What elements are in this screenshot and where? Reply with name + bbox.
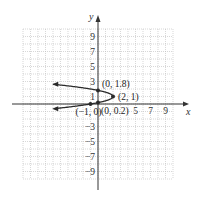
curve-arrow-icon (52, 106, 58, 111)
y-tick-label: 5 (90, 62, 95, 72)
y-tick-label: −5 (85, 137, 95, 147)
y-tick-label: −7 (85, 152, 95, 162)
curve-arrow-icon (52, 82, 58, 87)
x-tick-label: 7 (148, 106, 153, 116)
x-tick-label: 5 (133, 106, 138, 116)
point-label: (0, 0.2) (101, 106, 129, 117)
x-axis-label: x (185, 106, 191, 117)
y-tick-label: −3 (85, 122, 95, 132)
point-marker (96, 89, 100, 93)
y-tick-label: 3 (90, 77, 95, 87)
y-tick-label: −9 (85, 167, 95, 177)
labeled-points: (0, 1.8)(2, 1)(−1, 0)(0, 0.2) (76, 79, 139, 119)
point-label: (0, 1.8) (102, 79, 130, 90)
point-label: (−1, 0) (76, 107, 102, 118)
parabola-graph: xy 97531−3−5−7−9579 (0, 1.8)(2, 1)(−1, 0… (0, 0, 197, 200)
point-label: (2, 1) (118, 92, 139, 103)
axes: xy (12, 11, 191, 190)
point-marker (111, 95, 115, 99)
y-tick-label: 1 (90, 92, 95, 102)
point-marker (96, 101, 100, 105)
y-tick-label: 9 (90, 32, 95, 42)
y-axis-label: y (88, 11, 94, 22)
x-tick-label: 9 (163, 106, 168, 116)
point-marker (89, 102, 93, 106)
y-tick-label: 7 (90, 47, 95, 57)
y-axis-arrow-icon (96, 15, 101, 22)
